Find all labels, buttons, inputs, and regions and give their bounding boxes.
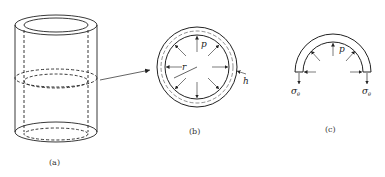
- caption-b: (b): [189, 127, 200, 136]
- label-thickness-h: h: [243, 76, 249, 86]
- panel-c-half-ring: [295, 34, 371, 84]
- label-radius-r: r: [182, 62, 187, 72]
- label-pressure-p-c: p: [339, 44, 345, 54]
- label-sigma-theta-right: σ θ: [362, 86, 371, 97]
- pressure-arrow: [175, 45, 186, 56]
- pressure-arrow: [311, 51, 320, 61]
- label-sigma-theta-left: σ θ: [291, 86, 300, 97]
- pressure-arrow: [208, 78, 219, 89]
- section-cut-inner: [24, 74, 88, 88]
- pointer-arrow-a-to-b: [100, 70, 150, 80]
- label-pressure-p: p: [201, 39, 207, 49]
- cylinder-bottom-back: [15, 122, 97, 132]
- pressure-arrow: [346, 51, 355, 61]
- svg-text:θ: θ: [297, 91, 300, 97]
- caption-c: (c): [325, 125, 336, 134]
- svg-text:θ: θ: [368, 91, 371, 97]
- thickness-arrow: [237, 71, 246, 74]
- pressure-arrow: [175, 78, 186, 89]
- figure-canvas: (a) p r h (b): [0, 0, 385, 177]
- pressure-arrow: [208, 45, 219, 56]
- panel-a-cylinder: [15, 15, 97, 142]
- caption-a: (a): [49, 158, 60, 167]
- cylinder-bottom-inner-hidden: [24, 128, 88, 140]
- half-ring-pressure-arrows: [304, 43, 362, 72]
- cylinder-top-inner: [24, 18, 88, 32]
